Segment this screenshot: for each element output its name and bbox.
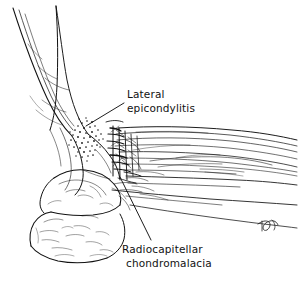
label-lateral-epicondylitis-line1: Lateral: [127, 88, 165, 100]
label-radiocapitellar-line2: chondromalacia: [126, 257, 212, 269]
figure-background: [0, 0, 299, 281]
label-lateral-epicondylitis-line2: epicondylitis: [127, 102, 195, 114]
illustration-canvas: Lateral epicondylitis Radiocapitellar ch…: [0, 0, 299, 281]
label-radiocapitellar-line1: Radiocapitellar: [122, 243, 203, 255]
elbow-anatomy-figure: Lateral epicondylitis Radiocapitellar ch…: [0, 0, 299, 281]
